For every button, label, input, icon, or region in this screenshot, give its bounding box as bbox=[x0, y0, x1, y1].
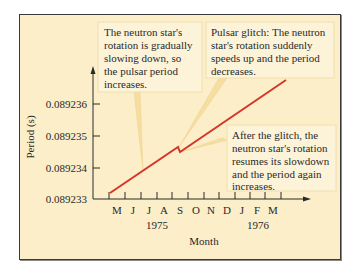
svg-text:and the period again: and the period again bbox=[232, 168, 322, 180]
x-tick-label: M bbox=[112, 204, 122, 216]
callout-glitch: Pulsar glitch: The neutron star's rotati… bbox=[206, 22, 334, 78]
svg-text:slowing down, so: slowing down, so bbox=[104, 52, 182, 64]
svg-text:increases.: increases. bbox=[104, 78, 147, 90]
year-label-1975: 1975 bbox=[146, 219, 169, 231]
x-tick-label: O bbox=[192, 204, 200, 216]
pulsar-period-chart: The neutron star's rotation is gradually… bbox=[0, 0, 357, 270]
x-tick-label: J bbox=[240, 204, 245, 216]
x-tick-label: N bbox=[207, 204, 215, 216]
x-tick-label: M bbox=[268, 204, 278, 216]
callout-slowdown: The neutron star's rotation is gradually… bbox=[98, 22, 202, 92]
x-tick-label: D bbox=[223, 204, 231, 216]
leader-after bbox=[181, 138, 227, 152]
svg-text:star's rotation suddenly: star's rotation suddenly bbox=[211, 39, 313, 51]
svg-text:Pulsar glitch: The neutron: Pulsar glitch: The neutron bbox=[211, 26, 326, 38]
x-tick-label: J bbox=[147, 204, 152, 216]
y-axis-title: Period (s) bbox=[24, 115, 37, 158]
leader-slowdown bbox=[134, 92, 143, 171]
svg-text:After the glitch, the: After the glitch, the bbox=[232, 129, 318, 141]
callout-after-glitch: After the glitch, the neutron star's rot… bbox=[227, 125, 336, 192]
svg-text:rotation is gradually: rotation is gradually bbox=[104, 39, 193, 51]
svg-text:neutron star's rotation: neutron star's rotation bbox=[232, 142, 328, 154]
svg-text:decreases.: decreases. bbox=[211, 65, 256, 77]
y-tick-label: 0.089233 bbox=[46, 193, 88, 205]
svg-text:increases.: increases. bbox=[232, 180, 275, 192]
svg-text:The neutron star's: The neutron star's bbox=[104, 26, 182, 38]
y-tick-label: 0.089236 bbox=[46, 98, 88, 110]
svg-text:the pulsar period: the pulsar period bbox=[104, 65, 178, 77]
svg-text:resumes its slowdown: resumes its slowdown bbox=[232, 155, 330, 167]
x-tick-label: A bbox=[160, 204, 168, 216]
x-tick-label: S bbox=[177, 204, 183, 216]
x-axis-arrow-icon bbox=[303, 197, 311, 202]
year-label-1976: 1976 bbox=[247, 219, 270, 231]
x-tick-label: F bbox=[254, 204, 260, 216]
svg-text:speeds up and the period: speeds up and the period bbox=[211, 52, 320, 64]
y-tick-label: 0.089235 bbox=[46, 130, 88, 142]
x-tick-label: J bbox=[131, 204, 136, 216]
x-axis bbox=[93, 192, 311, 202]
x-axis-title: Month bbox=[189, 235, 219, 247]
y-axis-arrow-icon bbox=[91, 66, 96, 74]
y-tick-label: 0.089234 bbox=[46, 162, 88, 174]
